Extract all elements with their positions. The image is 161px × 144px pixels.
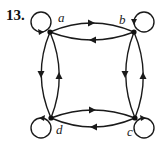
edge-a-d <box>41 32 51 118</box>
loop-arrow-c-icon <box>140 115 146 121</box>
arrow-d-a-icon <box>56 72 63 79</box>
vertex-label-c: c <box>127 124 133 139</box>
vertex-c <box>132 115 137 120</box>
vertex-b <box>131 29 136 34</box>
arrow-a-d-icon <box>38 71 45 78</box>
loop-arrow-a-icon <box>38 29 44 35</box>
vertex-label-a: a <box>58 10 65 25</box>
vertex-label-b: b <box>119 12 126 27</box>
loop-b <box>134 12 154 32</box>
vertex-a <box>47 29 52 34</box>
edge-b-c <box>126 32 135 118</box>
arrow-c-b-icon <box>140 72 147 79</box>
arrow-d-c-icon <box>89 107 96 114</box>
arrow-b-c-icon <box>122 71 129 78</box>
vertex-label-d: d <box>56 122 63 137</box>
directed-graph: a b c d <box>0 0 161 144</box>
vertex-d <box>48 115 53 120</box>
loop-d <box>31 118 51 138</box>
loop-c <box>134 118 154 138</box>
arrow-c-d-icon <box>90 124 97 131</box>
loop-arrow-d-icon <box>39 115 45 121</box>
loop-a <box>31 12 51 32</box>
arrow-a-b-icon <box>88 20 95 27</box>
arrow-b-a-icon <box>89 37 96 44</box>
loop-arrow-b-icon <box>131 19 137 25</box>
